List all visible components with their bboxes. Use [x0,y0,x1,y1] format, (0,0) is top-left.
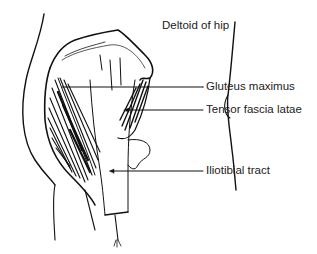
trochanter [128,139,150,168]
label-tensor-fascia-latae: Tensor fascia latae [206,104,302,116]
hip-illustration [0,0,317,254]
hip-anatomy-diagram: Deltoid of hip Gluteus maximus Tensor fa… [0,0,317,254]
label-iliotibial-tract: Iliotibial tract [206,165,270,177]
label-gluteus-maximus: Gluteus maximus [206,81,295,93]
label-deltoid-of-hip: Deltoid of hip [162,20,229,32]
iliac-crest [50,30,153,80]
